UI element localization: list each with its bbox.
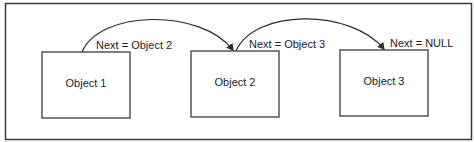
pointer-label: Next = Object 3 — [249, 38, 325, 50]
pointer-label: Next = Object 2 — [96, 39, 172, 51]
node-object-3: Object 3 — [340, 50, 428, 116]
linked-list-diagram: Object 1 Object 2 Object 3 Next = Object… — [0, 0, 474, 142]
diagram-frame — [6, 4, 472, 140]
node-label: Object 1 — [66, 77, 107, 89]
node-label: Object 2 — [215, 76, 256, 88]
node-object-1: Object 1 — [42, 52, 130, 118]
node-object-2: Object 2 — [191, 51, 279, 117]
pointer-label: Next = NULL — [390, 37, 453, 49]
node-label: Object 3 — [364, 75, 405, 87]
